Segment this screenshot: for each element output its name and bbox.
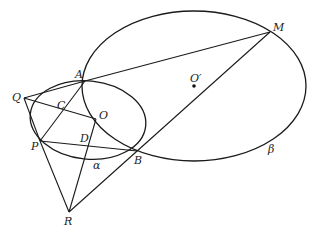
label-C: C [57,99,66,112]
label-D: D [79,132,89,145]
label-alpha: α [93,159,101,172]
label-beta: β [267,143,274,156]
label-A: A [74,68,83,81]
segment-PR [40,141,69,212]
label-O-prime: O′ [190,72,202,85]
label-P: P [30,140,39,153]
label-Q: Q [12,91,21,104]
geometry-diagram: A Q C O D P B R M O′ α β [0,0,314,233]
label-M: M [272,21,285,34]
segment-QP [24,98,40,141]
label-B: B [133,154,142,167]
label-R: R [63,215,72,228]
label-O: O [99,109,108,122]
segment-QA [24,81,85,98]
